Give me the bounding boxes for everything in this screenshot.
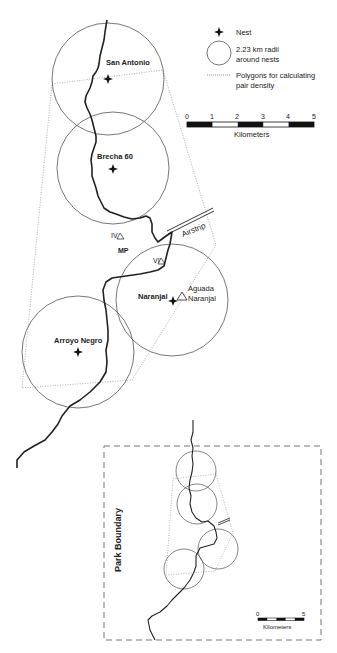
- nest-icon: [73, 347, 83, 357]
- scale-bar: 0 1 2 3 4 5 Kilometers: [185, 113, 316, 139]
- site-iv-label: IV: [111, 232, 118, 239]
- inset-airstrip: [218, 518, 230, 525]
- legend: Nest 2.23 km radii around nests Polygons…: [207, 27, 315, 90]
- nest-label-san-antonio: San Antonio: [106, 58, 150, 67]
- legend-polygon-label-1: Polygons for calculating: [236, 71, 315, 80]
- nest-icon: [168, 296, 178, 306]
- scale-tick-4: 4: [286, 113, 290, 120]
- inset-scale-unit: Kilometers: [263, 624, 291, 630]
- scale-tick-3: 3: [261, 113, 265, 120]
- inset-circle-arroyo-negro: [164, 549, 204, 589]
- inset-circle-brecha-60: [177, 484, 217, 524]
- inset-circle-naranjal: [198, 529, 238, 569]
- inset-scale-tick-0: 0: [256, 611, 260, 617]
- park-boundary: [104, 446, 321, 640]
- mp-label: MP: [118, 247, 129, 254]
- legend-radius-label-1: 2.23 km radii: [236, 45, 279, 54]
- main-map: Airstrip IV MP VI Aguada Naranjal San An…: [17, 20, 228, 468]
- nest-icon: [108, 164, 118, 174]
- inset-circle-san-antonio: [176, 451, 216, 491]
- aguada-label-line2: Naranjal: [188, 294, 216, 303]
- nest-label-brecha-60: Brecha 60: [97, 152, 133, 161]
- park-boundary-label: Park Boundary: [113, 508, 123, 572]
- scale-tick-0: 0: [185, 113, 189, 120]
- site-iv-marker: [117, 233, 124, 239]
- scale-unit: Kilometers: [234, 130, 270, 139]
- nest-icon: [103, 74, 113, 84]
- inset-scale-tick-5: 5: [302, 611, 306, 617]
- inset-density-polygon: [166, 474, 233, 575]
- inset-river-line: [148, 420, 217, 640]
- scale-tick-5: 5: [312, 113, 316, 120]
- nest-label-naranjal: Naranjal: [138, 292, 168, 301]
- legend-nest-icon: [214, 27, 224, 37]
- river-line: [17, 20, 172, 468]
- scale-tick-2: 2: [235, 113, 239, 120]
- inset-map: Park Boundary 0 5 Kilometers: [104, 420, 321, 640]
- aguada-naranjal-marker: [177, 292, 187, 300]
- airstrip-label: Airstrip: [180, 221, 207, 239]
- nest-density-map: Airstrip IV MP VI Aguada Naranjal San An…: [0, 0, 337, 653]
- scale-tick-1: 1: [210, 113, 214, 120]
- nest-label-arroyo-negro: Arroyo Negro: [54, 336, 103, 345]
- legend-polygon-label-2: pair density: [236, 81, 275, 90]
- inset-scale-bar: 0 5 Kilometers: [256, 611, 306, 630]
- legend-nest-label: Nest: [236, 28, 252, 37]
- legend-radius-icon: [207, 41, 231, 65]
- legend-radius-label-2: around nests: [236, 55, 280, 64]
- aguada-label-line1: Aguada: [188, 284, 215, 293]
